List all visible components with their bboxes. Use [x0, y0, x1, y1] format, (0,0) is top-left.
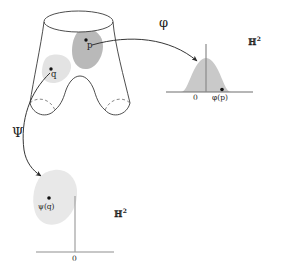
lower-chart-space-exponent: 2 — [123, 207, 127, 214]
point-q-label: q — [51, 70, 56, 79]
lower-chart-origin-label: 0 — [72, 255, 77, 263]
surface-top-opening — [44, 11, 113, 32]
upper-chart-space-symbol: ℍ — [248, 37, 257, 47]
lower-chart-space-label: ℍ2 — [114, 208, 127, 219]
upper-chart-space-exponent: 2 — [257, 35, 261, 42]
phi-map-label: φ — [159, 16, 168, 29]
pair-of-pants-surface — [30, 11, 130, 115]
psi-of-q-marker — [47, 196, 51, 200]
upper-chart-space-label: ℍ2 — [248, 36, 261, 47]
phi-of-p-marker — [220, 88, 224, 92]
psi-map-label: Ψ — [12, 126, 23, 139]
lower-chart-space-symbol: ℍ — [114, 209, 123, 219]
target-upper-right-chart — [166, 44, 253, 92]
upper-chart-origin-label: 0 — [193, 94, 198, 102]
point-p-label: p — [87, 41, 92, 50]
phi-of-p-label: φ(p) — [212, 94, 228, 102]
figure-canvas: φ Ψ p q 0 φ(p) ℍ2 ψ(q) 0 ℍ2 — [0, 0, 283, 278]
psi-image-region — [33, 170, 77, 225]
psi-of-q-label: ψ(q) — [38, 203, 55, 211]
diagram-graphics — [0, 0, 283, 278]
